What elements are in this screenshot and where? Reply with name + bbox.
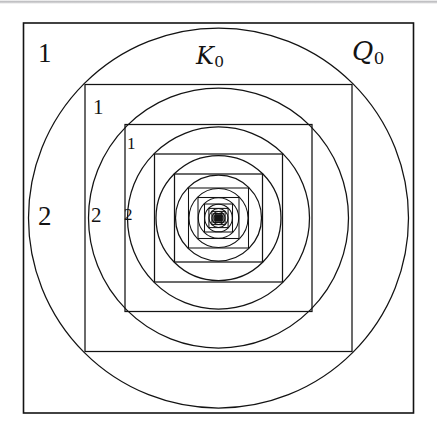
region-label-2-inner: 2: [124, 206, 133, 223]
region-label-1-middle-text: 1: [93, 95, 104, 119]
figure-root: 1 1 1 2 2 2 K0 Q0: [0, 0, 437, 439]
region-label-1-outer-text: 1: [38, 38, 52, 68]
region-label-2-middle: 2: [91, 205, 102, 226]
region-label-2-outer-text: 2: [38, 201, 52, 231]
outer-square-label: Q0: [352, 38, 384, 67]
outer-circle-label-letter: K: [196, 42, 214, 70]
region-label-2-middle-text: 2: [91, 203, 102, 227]
shapes-layer: [24, 23, 414, 413]
region-label-1-inner: 1: [127, 135, 136, 152]
region-label-2-outer: 2: [38, 203, 52, 230]
outer-square-label-subscript: 0: [374, 49, 385, 68]
region-label-2-inner-text: 2: [124, 205, 133, 224]
region-label-1-outer: 1: [38, 40, 52, 67]
outer-circle-label: K0: [196, 44, 224, 71]
center-core: [216, 215, 221, 220]
region-label-1-middle: 1: [93, 97, 104, 118]
region-label-1-inner-text: 1: [127, 134, 136, 153]
outer-circle-label-subscript: 0: [214, 53, 224, 71]
outer-square-label-letter: Q: [352, 36, 373, 66]
